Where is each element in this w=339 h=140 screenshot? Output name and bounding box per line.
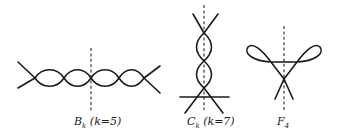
curve-f-right bbox=[284, 45, 321, 99]
label-c-k: Ck (k=7) bbox=[187, 116, 235, 130]
curve-c-right bbox=[204, 14, 223, 113]
figure-c-k bbox=[180, 5, 229, 113]
curve-c-left bbox=[185, 14, 204, 113]
curve-f-left bbox=[247, 45, 284, 99]
label-f-4: F4 bbox=[277, 116, 289, 130]
figure-b-k bbox=[18, 48, 160, 112]
label-b-k: Bk (k=5) bbox=[74, 116, 121, 130]
figure-f-4 bbox=[247, 26, 321, 110]
